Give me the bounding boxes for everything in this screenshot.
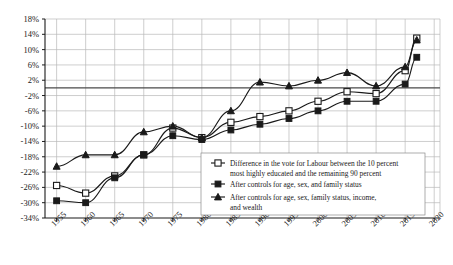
y-axis-label: -6% — [25, 106, 39, 116]
data-point-open-square — [83, 190, 89, 196]
x-axis-label: 1955 — [49, 209, 68, 228]
y-axis-label: 10% — [23, 45, 39, 55]
legend-marker-filled-square — [215, 181, 221, 187]
y-axis-label: -22% — [21, 167, 39, 177]
line-chart: 18%14%10%6%2%-2%-6%-10%-14%-18%-22%-26%-… — [0, 0, 453, 265]
chart-container: 18%14%10%6%2%-2%-6%-10%-14%-18%-22%-26%-… — [0, 0, 453, 265]
legend-label-continued: and wealth — [230, 203, 263, 212]
data-point-filled-square — [83, 200, 89, 206]
y-axis-label: 18% — [23, 14, 39, 24]
x-axis-label: 1965 — [107, 209, 126, 228]
data-point-open-square — [373, 91, 379, 97]
data-point-filled-square — [54, 198, 60, 204]
y-axis-label: -26% — [21, 182, 39, 192]
y-axis-label: -14% — [21, 136, 39, 146]
legend-label-continued: most highly educated and the remaining 9… — [230, 169, 382, 178]
legend-label: After controls for age, sex, and family … — [230, 180, 362, 189]
data-point-filled-square — [257, 121, 263, 127]
x-axis-label: 1975 — [165, 209, 184, 228]
data-point-open-square — [344, 89, 350, 95]
y-axis-label: 14% — [23, 29, 39, 39]
data-point-open-square — [315, 98, 321, 104]
x-axis-label: 1960 — [78, 209, 97, 228]
y-axis-label: 6% — [28, 60, 39, 70]
x-axis-label: 1970 — [136, 209, 155, 228]
data-point-filled-square — [112, 175, 118, 181]
y-axis-label: -34% — [21, 213, 39, 223]
y-axis-label: -2% — [25, 91, 39, 101]
legend-label: After controls for age, sex, family stat… — [230, 193, 376, 202]
data-point-filled-square — [414, 54, 420, 60]
data-point-filled-square — [228, 127, 234, 133]
data-point-open-square — [228, 119, 234, 125]
data-point-filled-square — [402, 81, 408, 87]
data-point-filled-square — [315, 108, 321, 114]
data-point-filled-square — [373, 98, 379, 104]
data-point-open-square — [257, 113, 263, 119]
data-point-filled-square — [344, 98, 350, 104]
x-axis-label: 2020 — [427, 209, 446, 228]
data-point-open-square — [286, 108, 292, 114]
data-point-filled-square — [170, 133, 176, 139]
y-axis-label: -10% — [21, 121, 39, 131]
legend-marker-open-square — [215, 160, 221, 166]
y-axis-label: 2% — [28, 75, 39, 85]
y-axis-label: -30% — [21, 198, 39, 208]
data-point-filled-square — [286, 116, 292, 122]
data-point-open-square — [54, 182, 60, 188]
data-point-filled-square — [141, 152, 147, 158]
legend-label: Difference in the vote for Labour betwee… — [230, 159, 399, 168]
series-line-3 — [57, 40, 417, 166]
y-axis-label: -18% — [21, 152, 39, 162]
